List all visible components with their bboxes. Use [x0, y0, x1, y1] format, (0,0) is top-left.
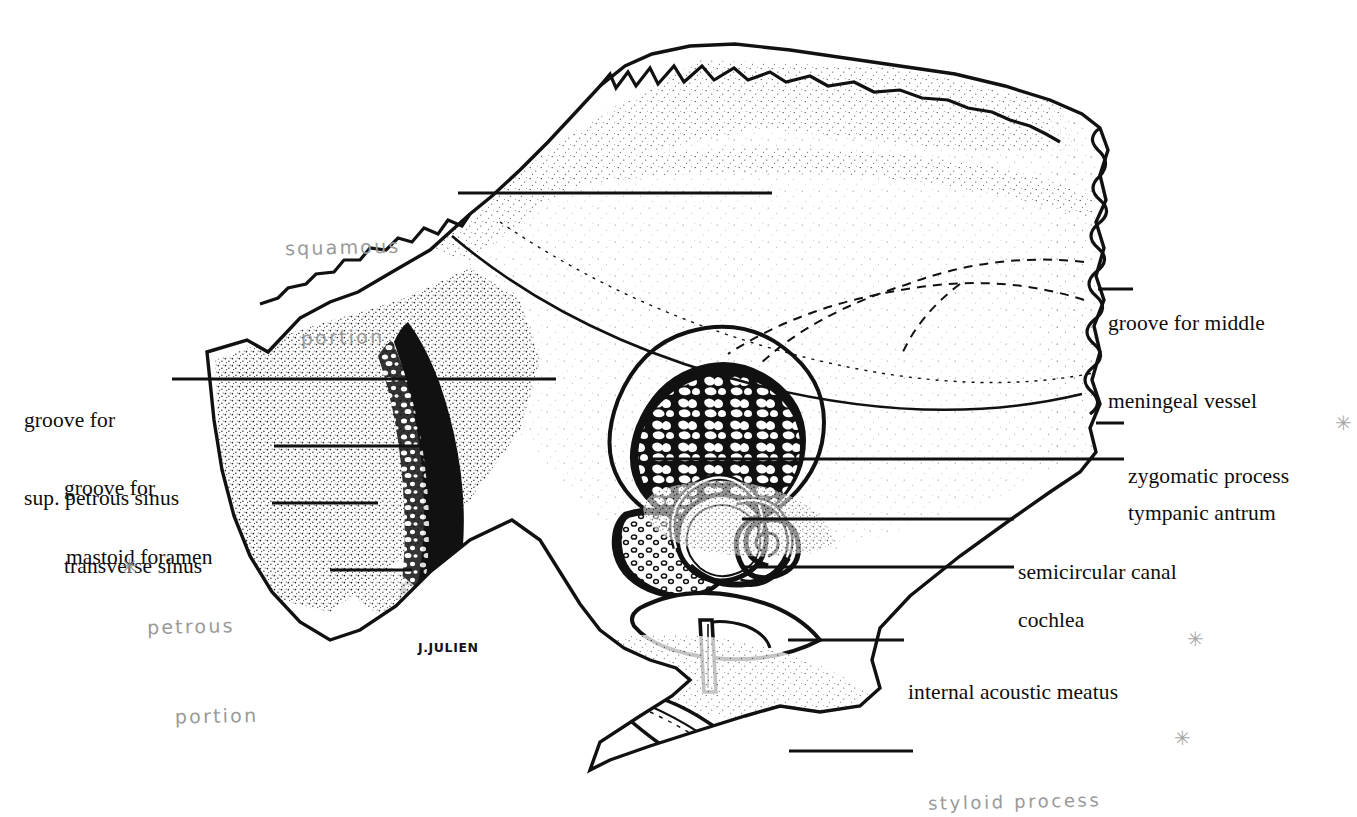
artist-signature: J.JULIEN: [418, 640, 479, 655]
handwritten-squamous-portion: squamous portion: [283, 171, 403, 413]
label-line: groove for middle: [1108, 310, 1265, 336]
handwritten-line: portion: [287, 321, 403, 353]
styloid-process-star-icon: ✳: [1174, 728, 1191, 748]
handwritten-line: portion: [149, 700, 259, 732]
handwritten-petrous-portion: petrous portion: [145, 550, 259, 792]
petrous-portion-star-icon: ✳: [121, 556, 138, 576]
handwritten-line: petrous: [147, 610, 257, 642]
zygomatic-process-star-icon: ✳: [1335, 413, 1352, 433]
internal-acoustic-meatus-star-icon: ✳: [1187, 629, 1204, 649]
handwritten-line: squamous: [285, 231, 401, 263]
handwritten-styloid-process: styloid process: [926, 725, 1103, 817]
handwritten-line: styloid process: [928, 785, 1102, 817]
label-line: internal acoustic meatus: [908, 679, 1118, 705]
